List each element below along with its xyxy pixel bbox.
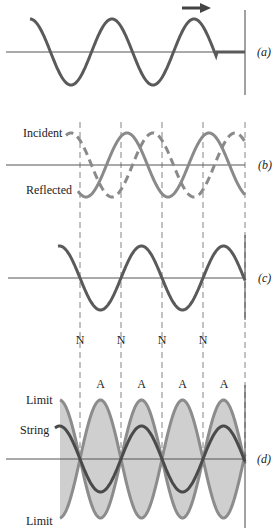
panel-label-c: (c) (258, 271, 271, 285)
antinode-label: A (220, 377, 229, 391)
node-label: N (76, 333, 85, 347)
antinode-labels: AAAA (96, 377, 229, 391)
panel-label-a: (a) (257, 45, 271, 59)
node-label: N (158, 333, 167, 347)
antinode-label: A (178, 377, 187, 391)
panel-c: (c) NNNN (8, 235, 271, 347)
direction-arrow-icon (182, 3, 211, 13)
string-label: String (20, 423, 49, 437)
panel-a: (a) (6, 3, 271, 95)
panel-label-b: (b) (258, 158, 272, 172)
node-label: N (199, 333, 208, 347)
node-labels: NNNN (76, 333, 208, 347)
limit-top-label: Limit (26, 393, 53, 407)
reflected-label: Reflected (26, 183, 72, 197)
limit-bottom-label: Limit (26, 514, 53, 528)
antinode-label: A (137, 377, 146, 391)
standing-wave-diagram: (a) Incident Reflected (b) (c) NNNN Limi… (0, 0, 274, 529)
antinode-label: A (96, 377, 105, 391)
panel-d: Limit String Limit (d) AAAA (6, 377, 271, 528)
node-label: N (117, 333, 126, 347)
panel-label-d: (d) (257, 452, 271, 466)
panel-b: Incident Reflected (b) (6, 126, 272, 197)
incident-label: Incident (23, 126, 63, 140)
